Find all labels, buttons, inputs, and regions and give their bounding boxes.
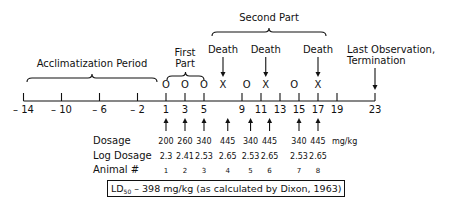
axis-tick-label: – 2 (130, 104, 145, 115)
log-dosage-value: 2.53 (242, 152, 260, 161)
survival-marker: O (162, 79, 170, 90)
termination-label-line1: Last Observation, (347, 44, 435, 55)
arrow-up-icon (297, 118, 302, 123)
dosage-value: 200 (158, 137, 173, 146)
dosage-value: 445 (262, 137, 277, 146)
animal-number-value: 5 (248, 167, 252, 175)
arrow-up-icon (164, 118, 169, 123)
ld50-result-box: LD50 – 398 mg/kg (as calculated by Dixon… (107, 180, 345, 197)
termination-marker: Last Observation,Termination (346, 44, 435, 90)
termination-label-line2: Termination (346, 55, 406, 66)
label-first-part-line1: First (174, 47, 195, 58)
axis-tick-label: – 6 (92, 104, 107, 115)
log-dosage-value: 2.53 (195, 152, 213, 161)
arrow-down-icon (221, 72, 226, 77)
brace-acclimatization (27, 74, 157, 82)
animal-number-value: 8 (316, 167, 320, 175)
survival-marker: O (181, 79, 189, 90)
dosing-table: DosageLog DosageAnimal #2002.312602.4123… (93, 118, 357, 175)
axis-tick-label: 5 (201, 104, 207, 115)
label-acclimatization-period: Acclimatization Period (37, 58, 148, 69)
axis-tick-label: 3 (182, 104, 188, 115)
survival-marker: O (200, 79, 208, 90)
death-label: Death (208, 44, 238, 55)
log-dosage-value: 2.65 (261, 152, 279, 161)
label-first-part-line2: Part (175, 58, 195, 69)
death-label: Death (303, 44, 333, 55)
arrow-up-icon (202, 118, 207, 123)
axis-tick-label: 23 (369, 104, 382, 115)
axis-tick-label: 15 (293, 104, 306, 115)
brace-second-part (212, 28, 326, 36)
row-label-animal-number: Animal # (93, 164, 139, 175)
death-marker: X (315, 79, 322, 90)
axis-tick-label: – 10 (51, 104, 72, 115)
animal-number-value: 1 (164, 167, 168, 175)
animal-number-value: 4 (226, 167, 231, 175)
row-label-log-dosage: Log Dosage (93, 150, 152, 161)
arrow-down-icon (263, 72, 268, 77)
dosage-value: 445 (220, 137, 235, 146)
survival-marker: O (243, 79, 251, 90)
ld-result-text: – 398 mg/kg (as calculated by Dixon, 196… (131, 183, 341, 194)
dosage-value: 260 (177, 137, 192, 146)
arrow-up-icon (225, 118, 230, 123)
label-second-part: Second Part (239, 12, 299, 23)
timeline-axis: – 14– 10– 6– 21359111315171923 (13, 93, 381, 115)
dosage-value: 340 (291, 137, 306, 146)
animal-number-value: 6 (267, 167, 272, 175)
animal-number-value: 3 (202, 167, 206, 175)
arrow-down-icon (373, 85, 378, 90)
log-dosage-value: 2.65 (309, 152, 327, 161)
axis-tick-label: 1 (163, 104, 169, 115)
death-label: Death (251, 44, 281, 55)
dosage-value: 340 (196, 137, 211, 146)
log-dosage-value: 2.41 (176, 152, 194, 161)
animal-number-value: 7 (297, 167, 301, 175)
axis-tick-label: 11 (255, 104, 268, 115)
arrow-up-icon (248, 118, 253, 123)
death-marker: X (220, 79, 227, 90)
axis-tick-label: 19 (331, 104, 344, 115)
row-label-dosage: Dosage (93, 135, 131, 146)
arrow-up-icon (183, 118, 188, 123)
ld50-timeline-diagram: – 14– 10– 6– 21359111315171923 Acclimati… (0, 0, 450, 209)
dosage-unit: mg/kg (332, 137, 357, 146)
death-marker: X (262, 79, 269, 90)
axis-tick-label: 13 (274, 104, 287, 115)
survival-marker: O (290, 79, 298, 90)
log-dosage-value: 2.53 (290, 152, 308, 161)
axis-tick-label: 17 (312, 104, 325, 115)
dosage-value: 340 (243, 137, 258, 146)
arrow-up-icon (267, 118, 272, 123)
dosage-value: 445 (310, 137, 325, 146)
arrow-up-icon (316, 118, 321, 123)
log-dosage-value: 2.65 (219, 152, 237, 161)
axis-tick-label: – 14 (13, 104, 34, 115)
arrow-down-icon (316, 72, 321, 77)
axis-tick-label: 9 (239, 104, 245, 115)
period-braces: Acclimatization PeriodFirstPartSecond Pa… (27, 12, 326, 82)
ld-prefix: LD (111, 183, 124, 194)
animal-number-value: 2 (183, 167, 187, 175)
log-dosage-value: 2.3 (160, 152, 173, 161)
